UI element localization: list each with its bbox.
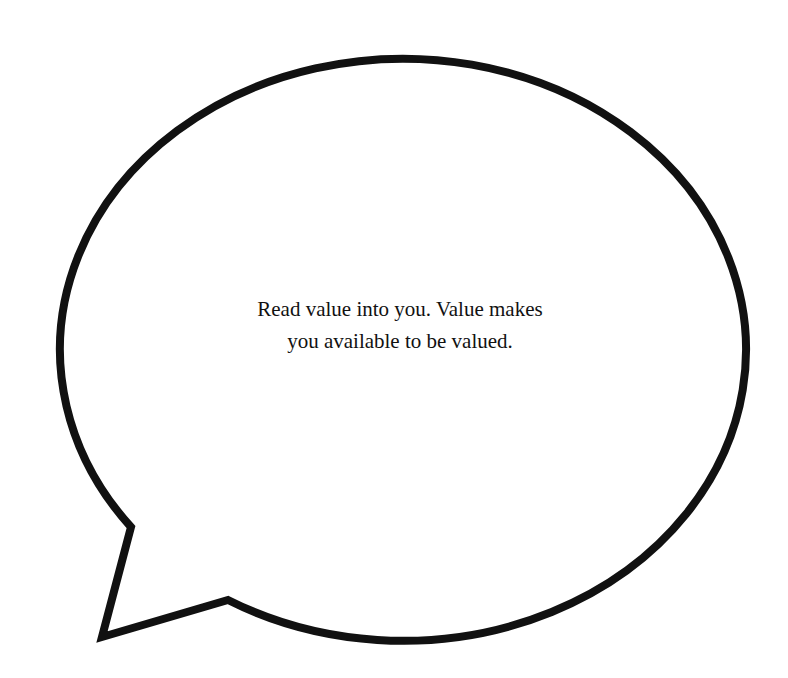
speech-line-2: you available to be valued.	[150, 325, 650, 357]
speech-line-1: Read value into you. Value makes	[150, 293, 650, 325]
speech-bubble-text: Read value into you. Value makes you ava…	[150, 293, 650, 357]
